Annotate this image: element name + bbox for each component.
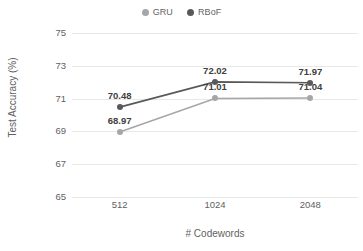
data-point-label: 72.02 [203,65,227,75]
y-axis-tick-label: 75 [36,28,66,38]
legend-item-rbof[interactable]: RBoF [187,8,221,17]
legend-marker-rbof-icon [187,9,194,16]
x-axis-tick-label: 2048 [300,200,321,210]
x-axis-ticks: 51210242048 [72,200,358,214]
gridline [72,197,358,198]
data-point-marker[interactable] [117,104,123,110]
x-axis-tick-label: 1024 [204,200,225,210]
y-axis-tick-label: 67 [36,159,66,169]
data-point-label: 71.01 [203,82,227,92]
y-axis-ticks: 656769717375 [30,33,66,197]
data-point-marker[interactable] [212,95,218,101]
data-point-label: 70.48 [108,91,132,101]
legend-label-rbof: RBoF [198,8,221,17]
data-point-label: 68.97 [108,115,132,125]
plot-area: 68.9771.0171.0470.4872.0271.97 [72,33,358,197]
y-axis-tick-label: 69 [36,126,66,136]
legend-label-gru: GRU [153,8,173,17]
y-axis-tick-label: 65 [36,192,66,202]
chart-legend: GRU RBoF [0,8,363,17]
series-line-gru [120,98,311,132]
y-axis-tick-label: 73 [36,61,66,71]
data-point-label: 71.04 [298,81,322,91]
line-chart: GRU RBoF 656769717375 Test Accuracy (%) … [0,0,363,251]
legend-marker-gru-icon [142,9,149,16]
y-axis-title: Test Accuracy (%) [7,28,18,168]
y-axis-tick-label: 71 [36,94,66,104]
data-point-label: 71.97 [298,66,322,76]
legend-item-gru[interactable]: GRU [142,8,173,17]
x-axis-tick-label: 512 [112,200,128,210]
x-axis-title: # Codewords [72,228,358,239]
data-point-marker[interactable] [117,129,123,135]
data-point-marker[interactable] [307,95,313,101]
